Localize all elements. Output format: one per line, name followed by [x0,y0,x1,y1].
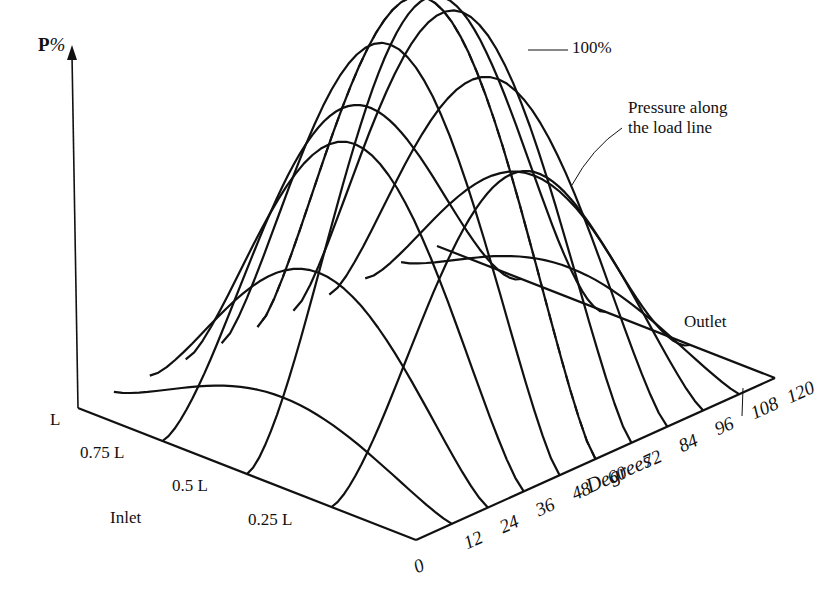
length-tick-label: 0.75 L [80,443,124,463]
p-axis [67,45,78,408]
constant-degree-line [114,386,452,524]
length-tick-label: 0.5 L [172,476,208,496]
constant-degree-line [365,172,703,411]
outlet-label: Outlet [684,312,727,332]
pressure-surface-diagram [0,0,832,595]
length-tick-label: L [50,410,60,430]
axis-arrow-icon [67,45,77,60]
load-line-dashed [258,0,596,459]
annotation-line-2: the load line [628,118,728,138]
p-axis-label-letter: P [38,34,50,55]
load-line-annotation: Pressure along the load line [628,98,728,138]
constant-length-line [163,105,522,441]
annotation-line-1: Pressure along [628,98,728,118]
constant-length-line [247,0,606,474]
annotation-leader-line [572,128,622,185]
length-tick-label: Inlet [110,508,141,528]
constant-degree-line [293,10,631,442]
p-axis-label: P% [38,34,65,56]
length-tick-label: 0.25 L [248,510,292,530]
p-axis-label-percent: % [50,34,66,55]
constant-degree-line [186,142,524,492]
surface-mesh [114,0,739,524]
load-line [258,0,596,459]
peak-label: 100% [572,38,612,58]
constant-degree-line [150,269,488,508]
constant-degree-line [258,0,596,459]
